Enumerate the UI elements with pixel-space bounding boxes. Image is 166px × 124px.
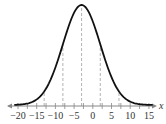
dashed-reference-lines [44, 5, 119, 106]
normal-curve [14, 5, 152, 105]
x-axis-label: x [158, 100, 164, 111]
x-tick-label: −15 [29, 110, 45, 121]
x-tick-label: 15 [144, 110, 154, 121]
x-tick-label: −10 [48, 110, 64, 121]
x-tick-label: 5 [109, 110, 114, 121]
x-tick-label: −20 [10, 110, 26, 121]
x-tick-label: 0 [90, 110, 95, 121]
x-axis-arrow-right [152, 104, 157, 109]
x-axis-arrow-left [7, 104, 12, 109]
x-tick-label: 10 [125, 110, 135, 121]
x-tick-label: −5 [69, 110, 80, 121]
normal-distribution-chart: −20−15−10−5051015 x [0, 0, 166, 124]
